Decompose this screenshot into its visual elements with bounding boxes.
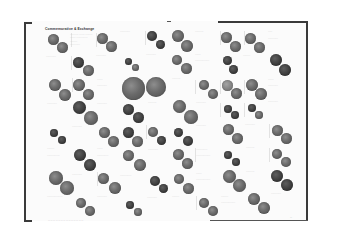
column-divider (244, 80, 245, 94)
coin-image (258, 202, 270, 214)
coin-image (199, 80, 209, 90)
coin-caption: ──── (97, 147, 103, 150)
coin-image (255, 111, 263, 119)
page-border-top (218, 21, 308, 23)
coin-image (99, 127, 110, 138)
coin-image (156, 40, 165, 49)
coin-caption: ────── (246, 146, 255, 149)
coin-image (279, 64, 291, 76)
coin-image (181, 40, 193, 52)
coin-image (122, 77, 145, 100)
coin-caption: ─────── (196, 101, 206, 104)
coin-image (50, 129, 58, 137)
coin-caption: ─────── (47, 102, 57, 105)
coin-caption: ────── (148, 101, 157, 104)
coin-image (173, 100, 186, 113)
column-divider (244, 103, 245, 117)
coin-caption: ─────── (72, 173, 82, 176)
coin-caption: ─────── (196, 124, 206, 127)
coin-caption: ───── (172, 195, 179, 198)
coin-caption: ───── (47, 147, 54, 150)
coin-image (254, 42, 265, 53)
coin-caption: ─────── (268, 37, 278, 40)
column-divider (269, 148, 270, 162)
coin-caption: ───── (221, 195, 228, 198)
coin-image (248, 193, 260, 205)
coin-caption: ──── (268, 78, 274, 81)
coin-image (148, 127, 158, 137)
coin-image (84, 159, 96, 171)
column-divider (196, 196, 197, 210)
fold-mark (167, 21, 171, 22)
coin-caption: ────────── (195, 59, 209, 62)
coin-image (181, 63, 192, 74)
coin-image (106, 41, 117, 52)
coin-image (134, 159, 146, 171)
coin-image (73, 57, 84, 68)
coin-image (208, 89, 218, 99)
coin-image (174, 174, 184, 184)
coin-image (133, 112, 144, 123)
coin-caption: ──────── (196, 148, 207, 151)
coin-image (172, 30, 184, 42)
coin-image (58, 136, 66, 144)
coin-image (146, 77, 166, 97)
coin-image (134, 208, 142, 216)
coin-image (173, 149, 184, 160)
coin-caption: ──── (97, 78, 103, 81)
coin-caption: ─────── (97, 84, 107, 87)
coin-image (245, 33, 256, 44)
coin-image (184, 110, 198, 124)
coin-image (182, 158, 193, 169)
coin-caption: ──────── (97, 154, 108, 157)
coin-caption: ─── (268, 30, 272, 33)
coin-image (231, 88, 242, 99)
coin-caption: ──────── (120, 174, 131, 177)
coin-caption: ─────── (72, 125, 82, 128)
coin-caption: ───────── (47, 154, 60, 157)
coin-image (271, 170, 283, 182)
coin-image (232, 158, 240, 166)
coin-image (221, 32, 232, 43)
coin-image (132, 64, 139, 71)
coin-image (73, 101, 86, 114)
coin-image (49, 79, 61, 91)
coin-image (230, 41, 241, 52)
column-divider (195, 80, 196, 94)
coin-image (281, 133, 292, 144)
coin-image (157, 136, 166, 145)
coin-image (123, 104, 134, 115)
coin-image (172, 55, 182, 65)
coin-image (224, 151, 232, 159)
page-number: — (290, 216, 292, 218)
page-border-corner (24, 220, 32, 222)
coin-caption: ─────── (120, 30, 130, 33)
coin-image (248, 104, 256, 112)
coin-image (109, 182, 121, 194)
coin-image (223, 56, 232, 65)
coin-image (123, 150, 134, 161)
coin-caption: ────────── (196, 178, 210, 181)
column-divider (220, 80, 221, 94)
coin-image (123, 127, 134, 138)
coin-image (98, 173, 109, 184)
coin-image (229, 65, 238, 74)
coin-caption: ─────── (146, 53, 156, 56)
coin-caption: ─────── (268, 84, 278, 87)
coin-image (223, 124, 234, 135)
coin-caption: ─────── (96, 54, 106, 57)
column-divider (146, 125, 147, 139)
coin-image (159, 184, 168, 193)
coin-image (132, 136, 143, 147)
coin-image (281, 179, 293, 191)
coin-image (183, 183, 194, 194)
coin-caption: ─────── (70, 43, 80, 46)
coin-caption: ────── (195, 30, 204, 33)
column-divider (145, 31, 146, 45)
coin-image (233, 179, 246, 192)
coin-image (231, 111, 239, 119)
column-divider (269, 124, 270, 138)
coin-caption: ─────── (46, 55, 56, 58)
page-title: Commemorative & Exchange (45, 27, 94, 31)
coin-image (60, 181, 74, 195)
